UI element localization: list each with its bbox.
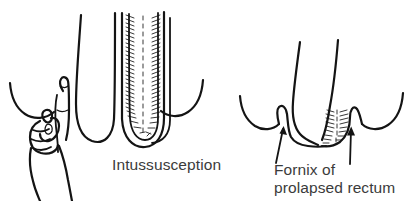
perineal-skin-right-right-panel xyxy=(362,93,403,129)
medical-illustration-figure: Intussusception Fornix ofprolapsed rectu… xyxy=(0,0,413,201)
caption-fornix-line-2: prolapsed rectum xyxy=(274,179,395,196)
mucosal-folds-hatching xyxy=(126,15,160,136)
wrist-outline-right xyxy=(59,146,72,201)
prolapsed-rectum-wall-left xyxy=(293,42,318,145)
index-finger-tip-crease xyxy=(60,86,68,88)
caption-intussusception: Intussusception xyxy=(112,156,221,174)
fornix-sulcus-left xyxy=(277,106,326,147)
arrow-left-shaft xyxy=(276,129,283,163)
index-finger-knuckle-crease xyxy=(57,110,68,112)
perineal-skin-left-right-panel xyxy=(240,96,279,129)
prolapsed-rectum-wall-right xyxy=(322,40,338,140)
outer-rectal-wall xyxy=(76,13,115,142)
caption-fornix-line-1: Fornix of xyxy=(274,161,335,178)
intussuscepting-inner-tube-lumen xyxy=(129,13,158,140)
examining-hand xyxy=(30,77,72,201)
perineal-skin-left xyxy=(10,83,54,118)
index-finger-inner-edge xyxy=(55,95,58,152)
arrow-left-head xyxy=(280,126,288,135)
pointer-arrow-left xyxy=(276,126,287,163)
finger-fold-crease-1 xyxy=(33,129,49,131)
wrist-outline-left xyxy=(30,148,40,201)
perineal-skin-right xyxy=(161,80,203,116)
right-panel-prolapse xyxy=(240,40,403,164)
finger-fold-crease-3 xyxy=(33,147,51,150)
caption-fornix-of-prolapsed-rectum: Fornix ofprolapsed rectum xyxy=(274,161,395,196)
